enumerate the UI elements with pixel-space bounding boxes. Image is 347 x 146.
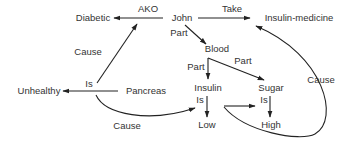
label-insulin-low-is: Is (196, 94, 204, 105)
node-sugar: Sugar (258, 82, 283, 93)
edge-pancreas-low-cause (96, 95, 195, 116)
node-insulin: Insulin (194, 82, 221, 93)
label-blood-sugar-part: Part (234, 55, 252, 66)
node-john: John (172, 12, 193, 23)
label-blood-insulin-part: Part (187, 61, 205, 72)
label-pancreas-diabetic-cause: Cause (74, 46, 101, 57)
label-pancreas-unhealthy-is: Is (85, 78, 93, 89)
edge-john-blood (185, 25, 206, 44)
label-take: Take (222, 3, 242, 14)
node-pancreas: Pancreas (126, 85, 166, 96)
label-ako: AKO (138, 3, 158, 14)
label-pancreas-low-cause: Cause (113, 120, 140, 131)
label-sugar-high-is: Is (260, 94, 268, 105)
label-loop-medicine-cause: Cause (307, 74, 334, 85)
node-low: Low (198, 119, 216, 130)
node-unhealthy: Unhealthy (18, 85, 61, 96)
node-blood: Blood (205, 43, 229, 54)
node-high: High (261, 119, 281, 130)
edge-pancreas-diabetic-cause (97, 24, 137, 83)
semantic-network-diagram: Diabetic John Insulin-medicine Blood Unh… (0, 0, 347, 146)
node-insulin-medicine: Insulin-medicine (265, 12, 334, 23)
label-john-blood-part: Part (170, 27, 188, 38)
node-diabetic: Diabetic (76, 12, 111, 23)
